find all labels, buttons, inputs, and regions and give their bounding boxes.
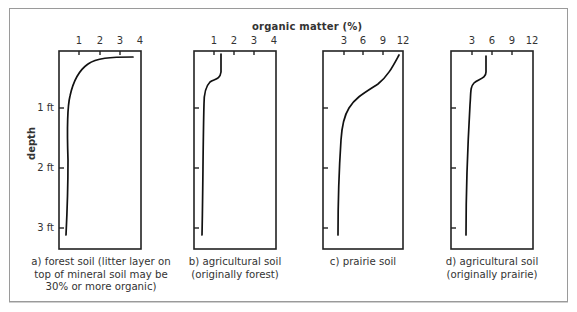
caption-line: (originally prairie): [437, 269, 547, 282]
panel-d-box: [451, 51, 533, 249]
caption-line: 30% or more organic): [28, 281, 174, 294]
panel-b-caption: b) agricultural soil (originally forest): [180, 256, 290, 281]
caption-line: b) agricultural soil: [180, 256, 290, 269]
caption-line: (originally forest): [180, 269, 290, 282]
caption-line: d) agricultural soil: [437, 256, 547, 269]
panel-a-caption: a) forest soil (litter layer on top of m…: [28, 256, 174, 294]
panel-a-box: [59, 51, 141, 249]
panel-b-curve: [202, 54, 221, 235]
caption-line: c) prairie soil: [313, 256, 413, 269]
panel-a-curve: [66, 57, 133, 235]
panel-c-caption: c) prairie soil: [313, 256, 413, 269]
panel-d-caption: d) agricultural soil (originally prairie…: [437, 256, 547, 281]
panel-c-curve: [338, 55, 399, 235]
panel-c-box: [323, 51, 403, 249]
panel-d-curve: [466, 56, 486, 235]
caption-line: a) forest soil (litter layer on: [28, 256, 174, 269]
panel-b-box: [194, 51, 276, 249]
caption-line: top of mineral soil may be: [28, 269, 174, 282]
